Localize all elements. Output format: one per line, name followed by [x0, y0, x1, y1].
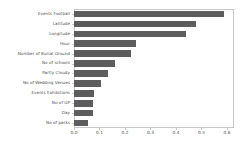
y-tick-label-row: No of schools: [0, 59, 70, 69]
y-axis-labels: Events FootballLatitudeLongitudeHourNumb…: [0, 9, 72, 128]
y-tick-label: No of parks: [46, 121, 70, 125]
bar: [74, 70, 108, 77]
bar-row: [74, 39, 234, 49]
y-tick-label-row: Day: [0, 108, 70, 118]
x-tick-label: 0.0: [71, 131, 78, 135]
bar: [74, 11, 224, 18]
y-tick-label: Latitude: [53, 22, 70, 26]
y-tick-label-row: Number of Burial Ground: [0, 49, 70, 59]
bar-row: [74, 49, 234, 59]
y-tick-label: No of schools: [42, 61, 70, 65]
bar-row: [74, 78, 234, 88]
bars-container: [74, 9, 234, 128]
bar: [74, 100, 93, 107]
x-axis-ticks: 0.00.10.20.30.40.50.6: [74, 128, 234, 148]
bar-row: [74, 59, 234, 69]
x-tick-label: 0.3: [147, 131, 154, 135]
bar-row: [74, 118, 234, 128]
y-tick-label: Number of Burial Ground: [18, 52, 70, 56]
y-tick-label: Events Exhibitions: [31, 91, 70, 95]
bar-row: [74, 19, 234, 29]
bar-row: [74, 88, 234, 98]
x-tick-label: 0.4: [173, 131, 180, 135]
y-tick-label: Hour: [60, 42, 70, 46]
y-tick-label-row: Events Exhibitions: [0, 88, 70, 98]
y-tick-label-row: Latitude: [0, 19, 70, 29]
y-tick-label-row: Partly Cloudy: [0, 69, 70, 79]
y-tick-label: Longitude: [49, 32, 70, 36]
y-tick-label: Day: [62, 111, 70, 115]
bar: [74, 50, 131, 57]
bar: [74, 120, 88, 127]
bar: [74, 60, 115, 67]
x-tick-label: 0.6: [224, 131, 231, 135]
bar-chart-figure: Events FootballLatitudeLongitudeHourNumb…: [0, 0, 243, 150]
y-tick-label-row: Hour: [0, 39, 70, 49]
bar-row: [74, 69, 234, 79]
x-tick-label: 0.2: [122, 131, 129, 135]
bar-row: [74, 9, 234, 19]
bar: [74, 80, 101, 87]
bar-row: [74, 29, 234, 39]
y-tick-label: No of Wedding Venues: [23, 81, 70, 85]
y-tick-label-row: Events Football: [0, 9, 70, 19]
bar-row: [74, 98, 234, 108]
y-tick-label: Events Football: [38, 12, 70, 16]
bar: [74, 90, 94, 97]
bar-row: [74, 108, 234, 118]
y-tick-label: No of GP: [52, 101, 70, 105]
y-tick-label-row: No of Wedding Venues: [0, 78, 70, 88]
y-tick-label-row: No of parks: [0, 118, 70, 128]
y-tick-label-row: No of GP: [0, 98, 70, 108]
bar: [74, 110, 93, 117]
x-tick-label: 0.5: [198, 131, 205, 135]
bar: [74, 21, 196, 28]
bar: [74, 40, 136, 47]
y-tick-label: Partly Cloudy: [42, 71, 70, 75]
x-tick-label: 0.1: [96, 131, 103, 135]
bar: [74, 31, 186, 38]
y-tick-label-row: Longitude: [0, 29, 70, 39]
